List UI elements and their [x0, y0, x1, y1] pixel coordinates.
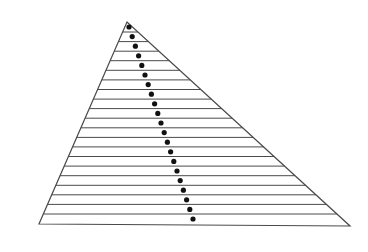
path-dot [146, 82, 151, 87]
path-dot [174, 168, 179, 173]
triangle-diagram [0, 0, 368, 252]
triangle-outline [39, 22, 350, 226]
path-dot [187, 207, 192, 212]
diagram-canvas [0, 0, 368, 252]
path-dot [155, 111, 160, 116]
path-dot [171, 159, 176, 164]
hatch-lines [43, 32, 337, 214]
path-dot [139, 63, 144, 68]
path-dot [168, 149, 173, 154]
dotted-path [126, 24, 195, 221]
path-dot [126, 24, 131, 29]
path-dot [162, 130, 167, 135]
path-dot [165, 140, 170, 145]
path-dot [184, 197, 189, 202]
path-dot [133, 44, 138, 49]
path-dot [158, 120, 163, 125]
path-dot [136, 53, 141, 58]
path-dot [152, 101, 157, 106]
path-dot [178, 178, 183, 183]
path-dot [130, 34, 135, 39]
path-dot [149, 92, 154, 97]
path-dot [181, 188, 186, 193]
path-dot [190, 216, 195, 221]
path-dot [142, 72, 147, 77]
